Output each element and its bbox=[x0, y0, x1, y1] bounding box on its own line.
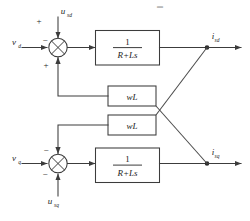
top-junction-sign-lower: + bbox=[43, 60, 48, 70]
top-plant-numerator: 1 bbox=[125, 37, 130, 47]
bottom-plant-numerator: 1 bbox=[125, 154, 130, 164]
output-isq-subscript: sq bbox=[215, 153, 220, 159]
top-plant-denominator: R+Ls bbox=[116, 50, 138, 60]
top-junction-sign-input: − bbox=[42, 35, 47, 45]
wire-cross-isq-to-upper-wl bbox=[156, 106, 207, 164]
disturbance-usq-label: u bbox=[48, 196, 53, 206]
bottom-junction-sign-lower: − bbox=[42, 169, 47, 179]
upper-wl-label: wL bbox=[126, 92, 137, 102]
bottom-plant-denominator: R+Ls bbox=[116, 168, 138, 178]
disturbance-usd-subscript: sd bbox=[67, 12, 72, 18]
wire-cross-isd-to-lower-wl bbox=[156, 48, 207, 116]
output-isd-subscript: sd bbox=[215, 37, 220, 43]
top-junction-sign-upper-left: + bbox=[36, 16, 41, 26]
input-vq-subscript: q bbox=[18, 159, 21, 165]
bottom-junction-sign-upper: − bbox=[43, 145, 48, 155]
scan-artifact-mark: ▬ bbox=[157, 3, 163, 9]
disturbance-usd-label: u bbox=[61, 6, 66, 16]
disturbance-usq-subscript: sq bbox=[54, 202, 59, 208]
input-vd-subscript: d bbox=[18, 43, 21, 49]
block-diagram-svg: 1 R+Ls 1 R+Ls wL wL v d v q u sd u sq i … bbox=[0, 0, 250, 221]
input-vq-label: v bbox=[12, 153, 16, 163]
input-vd-label: v bbox=[12, 37, 16, 47]
lower-wl-label: wL bbox=[126, 121, 137, 131]
block-diagram-canvas: 1 R+Ls 1 R+Ls wL wL v d v q u sd u sq i … bbox=[0, 0, 250, 221]
